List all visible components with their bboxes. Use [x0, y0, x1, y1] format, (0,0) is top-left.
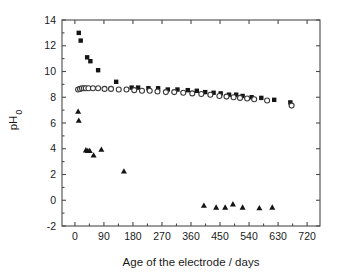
x-tick-label: 540 [240, 230, 258, 242]
y-axis-title-main: pH [7, 116, 19, 131]
marker-square [259, 96, 263, 100]
y-tick-label: 4 [50, 142, 56, 154]
y-tick-label: 2 [50, 168, 56, 180]
x-tick-label: 270 [153, 230, 171, 242]
y-tick-label: 6 [50, 117, 56, 129]
y-tick-label: 12 [44, 39, 56, 51]
marker-circle [208, 92, 213, 97]
x-tick-label: 450 [211, 230, 229, 242]
scatter-plot: 090180270360450540630720 -202468101214 A… [0, 0, 340, 278]
y-tick-label: 14 [44, 14, 56, 26]
marker-square [114, 80, 118, 84]
marker-circle [155, 89, 160, 94]
x-tick-label: 630 [269, 230, 287, 242]
marker-circle [147, 88, 152, 93]
marker-circle [190, 91, 195, 96]
marker-circle [102, 86, 107, 91]
marker-circle [163, 90, 168, 95]
marker-square [195, 89, 199, 93]
x-tick-label: 0 [72, 230, 78, 242]
marker-square [79, 38, 83, 42]
marker-circle [96, 86, 101, 91]
x-tick-label: 360 [182, 230, 200, 242]
marker-square [186, 88, 190, 92]
x-tick-label: 180 [124, 230, 142, 242]
marker-circle [132, 88, 137, 93]
marker-circle [217, 93, 222, 98]
marker-circle [231, 95, 236, 100]
marker-square [88, 59, 92, 63]
marker-circle [124, 87, 129, 92]
marker-square [85, 55, 89, 59]
chart-figure: 090180270360450540630720 -202468101214 A… [0, 0, 340, 278]
x-tick-label: 720 [298, 230, 316, 242]
x-axis-tick-labels: 090180270360450540630720 [72, 230, 316, 242]
marker-circle [116, 87, 121, 92]
marker-square [272, 98, 276, 102]
marker-circle [172, 90, 177, 95]
x-tick-label: 90 [98, 230, 110, 242]
marker-circle [181, 90, 186, 95]
marker-circle [109, 86, 114, 91]
x-axis-title: Age of the electrode / days [123, 256, 260, 268]
marker-circle [245, 96, 250, 101]
marker-square [96, 68, 100, 72]
marker-circle [139, 88, 144, 93]
y-tick-label: 10 [44, 65, 56, 77]
y-tick-label: 8 [50, 91, 56, 103]
marker-circle [90, 86, 95, 91]
y-axis-title-subscript: 0 [14, 109, 24, 114]
marker-circle [224, 94, 229, 99]
marker-circle [238, 95, 243, 100]
marker-circle [199, 92, 204, 97]
y-tick-label: -2 [47, 220, 56, 232]
marker-square [77, 31, 81, 35]
marker-circle [289, 103, 294, 108]
marker-circle [252, 97, 257, 102]
y-tick-label: 0 [50, 194, 56, 206]
marker-circle [265, 98, 270, 103]
